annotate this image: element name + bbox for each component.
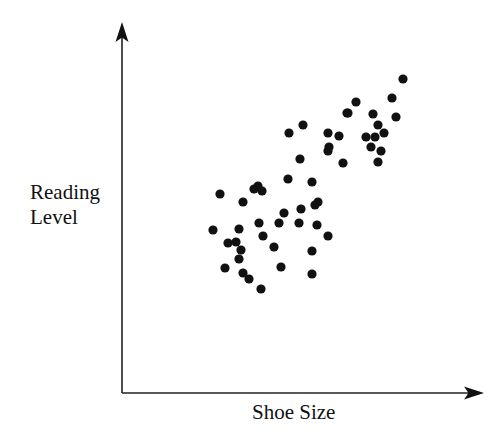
- data-point: [370, 132, 379, 141]
- data-point: [294, 218, 303, 227]
- data-point: [220, 263, 229, 272]
- data-point: [307, 246, 316, 255]
- y-axis-label-line-1: Reading: [30, 180, 120, 205]
- data-point: [256, 284, 265, 293]
- data-point: [296, 204, 305, 213]
- data-point: [366, 142, 375, 151]
- data-point: [279, 208, 288, 217]
- data-point: [307, 177, 316, 186]
- data-point: [379, 128, 388, 137]
- data-point: [254, 218, 263, 227]
- data-point: [391, 112, 400, 121]
- data-point: [373, 157, 382, 166]
- data-point: [368, 109, 377, 118]
- data-point: [338, 158, 347, 167]
- data-point: [373, 120, 382, 129]
- data-points: [208, 74, 407, 293]
- data-point: [215, 189, 224, 198]
- data-point: [234, 224, 243, 233]
- data-point: [238, 197, 247, 206]
- data-point: [307, 269, 316, 278]
- data-point: [236, 245, 245, 254]
- y-axis-label-line-2: Level: [30, 205, 120, 230]
- data-point: [298, 120, 307, 129]
- data-point: [323, 231, 332, 240]
- data-point: [361, 132, 370, 141]
- data-point: [334, 131, 343, 140]
- data-point: [310, 200, 319, 209]
- data-point: [234, 254, 243, 263]
- data-point: [274, 218, 283, 227]
- data-point: [295, 154, 304, 163]
- y-axis-label: Reading Level: [30, 180, 120, 230]
- data-point: [257, 186, 266, 195]
- data-point: [398, 74, 407, 83]
- data-point: [269, 242, 278, 251]
- data-point: [244, 274, 253, 283]
- data-point: [387, 93, 396, 102]
- data-point: [351, 97, 360, 106]
- data-point: [323, 146, 332, 155]
- data-point: [276, 262, 285, 271]
- data-point: [223, 238, 232, 247]
- data-point: [343, 108, 352, 117]
- data-point: [376, 146, 385, 155]
- data-point: [208, 225, 217, 234]
- data-point: [258, 231, 267, 240]
- x-axis-label: Shoe Size: [252, 400, 335, 425]
- data-point: [231, 237, 240, 246]
- data-point: [323, 128, 332, 137]
- data-point: [284, 128, 293, 137]
- data-point: [312, 220, 321, 229]
- data-point: [283, 174, 292, 183]
